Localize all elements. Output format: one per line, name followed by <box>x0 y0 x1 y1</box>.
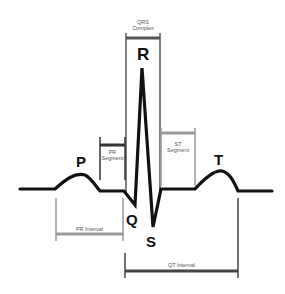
s-wave-label: S <box>146 234 156 249</box>
st-segment-label: ST Segment <box>161 141 195 154</box>
r-wave-label: R <box>137 46 149 63</box>
qrs-complex-label-line2: Complex <box>126 25 160 31</box>
pr-segment-label: PR Segment <box>100 149 125 162</box>
pr-segment-label-line2: Segment <box>100 155 125 161</box>
qrs-complex-label: QRS Complex <box>126 19 160 32</box>
q-wave-label: Q <box>126 212 138 227</box>
pr-interval-label: PR Interval <box>56 226 123 232</box>
qt-interval-label: QT Interval <box>125 262 238 268</box>
t-wave-label: T <box>214 152 223 167</box>
st-segment-label-line2: Segment <box>161 147 195 153</box>
pr-interval-bracket <box>56 198 123 241</box>
ecg-waveform <box>20 68 272 227</box>
st-segment-bracket <box>161 128 195 186</box>
p-wave-label: P <box>76 154 86 169</box>
